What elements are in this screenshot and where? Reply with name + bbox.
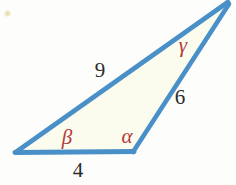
triangle-figure: 9 6 4 β α γ [0, 0, 236, 185]
side-label-6: 6 [175, 87, 186, 108]
angle-label-alpha: α [121, 126, 132, 147]
angle-label-gamma: γ [179, 35, 187, 56]
side-label-4: 4 [73, 160, 84, 181]
side-label-9: 9 [95, 60, 106, 81]
triangle-shape [0, 0, 236, 185]
angle-label-beta: β [62, 127, 72, 148]
triangle-side-base [15, 152, 134, 153]
